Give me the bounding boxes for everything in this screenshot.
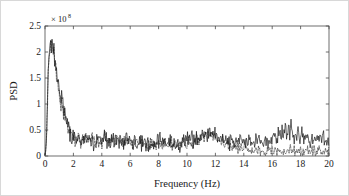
y-multiplier-group: × 10 8 — [51, 13, 71, 24]
x-tick-label-3: 6 — [128, 159, 133, 169]
x-tick-label-0: 0 — [43, 159, 48, 169]
series-solid-trace — [45, 39, 329, 155]
x-axis-tick-labels: 02468101214161820 — [43, 159, 334, 169]
x-tick-label-10: 20 — [324, 159, 334, 169]
y-axis-title: PSD — [8, 81, 19, 101]
data-series-group — [45, 39, 329, 156]
x-tick-label-2: 4 — [99, 159, 104, 169]
y-tick-label-2: 1 — [36, 99, 41, 109]
y-axis-multiplier-label: × 10 — [51, 14, 66, 24]
x-tick-label-1: 2 — [71, 159, 76, 169]
x-tick-label-8: 16 — [267, 159, 277, 169]
y-axis-multiplier-exponent: 8 — [68, 13, 71, 19]
y-tick-label-0: 0 — [36, 151, 41, 161]
x-tick-label-9: 18 — [296, 159, 306, 169]
psd-chart: 02468101214161820 00.511.522.5 × 10 8 Fr… — [1, 1, 349, 196]
x-axis-title: Frequency (Hz) — [154, 178, 221, 190]
x-tick-label-5: 10 — [182, 159, 192, 169]
y-tick-label-1: 0.5 — [29, 125, 41, 135]
x-tick-label-6: 12 — [211, 159, 221, 169]
x-tick-label-7: 14 — [239, 159, 249, 169]
y-tick-label-5: 2.5 — [29, 21, 41, 31]
y-axis-tick-labels: 00.511.522.5 — [29, 21, 41, 161]
x-tick-label-4: 8 — [156, 159, 161, 169]
figure-container: 02468101214161820 00.511.522.5 × 10 8 Fr… — [0, 0, 349, 196]
y-tick-label-3: 1.5 — [29, 73, 41, 83]
y-tick-label-4: 2 — [36, 47, 41, 57]
